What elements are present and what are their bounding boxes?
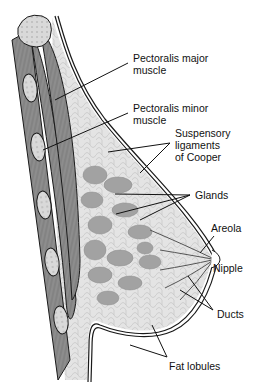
label-pectoralis-minor: Pectoralis minor muscle — [133, 102, 208, 126]
label-ducts: Ducts — [217, 308, 244, 320]
label-suspensory-ligaments: Suspensory ligaments of Cooper — [175, 127, 230, 163]
label-fat-lobules: Fat lobules — [169, 360, 220, 372]
label-areola: Areola — [211, 222, 241, 234]
label-glands: Glands — [195, 189, 228, 201]
label-nipple: Nipple — [213, 262, 243, 274]
label-pectoralis-major: Pectoralis major muscle — [133, 52, 208, 76]
